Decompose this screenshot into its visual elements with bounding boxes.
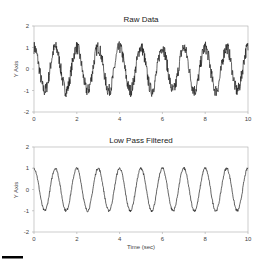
filtered-title: Low Pass Filtered bbox=[109, 136, 173, 145]
y-tick-label: 2 bbox=[26, 144, 30, 150]
x-tick-label: 8 bbox=[204, 116, 208, 122]
raw-data-panel: Raw Data Y Axis 210-1-2 0246810 bbox=[13, 15, 252, 122]
scale-bar bbox=[2, 256, 23, 259]
x-tick-label: 4 bbox=[118, 116, 122, 122]
y-tick-label: 1 bbox=[26, 165, 30, 171]
y-tick-label: 1 bbox=[26, 45, 30, 51]
x-tick-label: 6 bbox=[161, 236, 165, 242]
filtered-x-axis-label: Time (sec) bbox=[127, 244, 155, 250]
y-tick-label: 2 bbox=[26, 23, 30, 29]
filtered-data-line bbox=[34, 167, 248, 212]
raw-y-ticks: 210-1-2 bbox=[24, 23, 34, 115]
filtered-plot-frame bbox=[34, 147, 248, 232]
y-tick-label: -2 bbox=[24, 109, 30, 115]
raw-plot-frame bbox=[34, 26, 248, 112]
raw-data-title: Raw Data bbox=[123, 15, 159, 24]
x-tick-label: 0 bbox=[32, 236, 36, 242]
chart-figure: Raw Data Y Axis 210-1-2 0246810 Low Pass… bbox=[0, 0, 266, 264]
y-tick-label: -1 bbox=[24, 208, 30, 214]
x-tick-label: 8 bbox=[204, 236, 208, 242]
y-tick-label: -1 bbox=[24, 88, 30, 94]
x-tick-label: 10 bbox=[245, 236, 252, 242]
x-tick-label: 4 bbox=[118, 236, 122, 242]
x-tick-label: 10 bbox=[245, 116, 252, 122]
y-tick-label: 0 bbox=[26, 66, 30, 72]
filtered-x-ticks: 0246810 bbox=[32, 232, 252, 242]
x-tick-label: 2 bbox=[75, 236, 79, 242]
y-tick-label: -2 bbox=[24, 229, 30, 235]
filtered-y-ticks: 210-1-2 bbox=[24, 144, 34, 235]
raw-y-axis-label: Y Axis bbox=[13, 61, 19, 78]
raw-data-line bbox=[34, 41, 248, 96]
y-tick-label: 0 bbox=[26, 187, 30, 193]
filtered-panel: Low Pass Filtered Y Axis Time (sec) 210-… bbox=[13, 136, 252, 250]
x-tick-label: 0 bbox=[32, 116, 36, 122]
x-tick-label: 2 bbox=[75, 116, 79, 122]
raw-x-ticks: 0246810 bbox=[32, 112, 252, 122]
filtered-y-axis-label: Y Axis bbox=[13, 182, 19, 199]
x-tick-label: 6 bbox=[161, 116, 165, 122]
